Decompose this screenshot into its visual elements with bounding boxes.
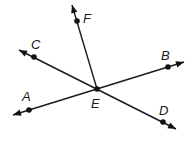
arrowhead-icon [175, 61, 184, 67]
label-F: F [83, 11, 92, 26]
point-C [31, 54, 37, 60]
point-B [165, 64, 171, 70]
label-A: A [21, 89, 31, 104]
label-B: B [161, 48, 170, 63]
label-E: E [91, 96, 100, 111]
point-A [26, 107, 32, 113]
arrowhead-icon [167, 123, 176, 129]
point-D [160, 119, 166, 125]
geometry-diagram: ABCDFE [0, 0, 194, 141]
arrowhead-icon [13, 110, 22, 116]
point-F [74, 18, 80, 24]
arrowhead-icon [19, 50, 28, 56]
label-C: C [31, 37, 41, 52]
point-E [94, 86, 100, 92]
labels-layer: ABCDFE [21, 11, 170, 118]
label-D: D [159, 103, 168, 118]
arrowhead-icon [71, 5, 77, 14]
